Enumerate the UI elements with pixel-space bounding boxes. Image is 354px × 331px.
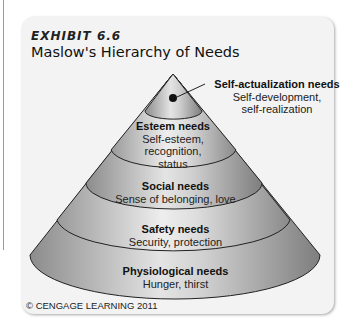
label-safety: Safety needs Security, protection bbox=[93, 223, 258, 248]
label-self-actualization: Self-actualization needs Self-developmen… bbox=[202, 78, 352, 116]
label-esteem: Esteem needs Self-esteem, recognition, s… bbox=[113, 120, 233, 170]
apex-dot bbox=[169, 94, 177, 102]
label-social: Social needs Sense of belonging, love bbox=[93, 180, 258, 205]
copyright-notice: © CENGAGE LEARNING 2011 bbox=[26, 300, 157, 311]
label-physiological: Physiological needs Hunger, thirst bbox=[93, 265, 258, 290]
